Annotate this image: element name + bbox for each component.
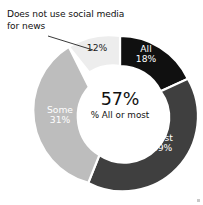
- annotation-label: Does not use social media for news: [7, 9, 127, 32]
- center-caption: % All or most: [66, 110, 174, 121]
- corner-mark: [197, 199, 200, 202]
- donut-center-block: 57% % All or most: [66, 90, 174, 121]
- center-value: 57%: [66, 90, 174, 109]
- donut-chart-figure: Does not use social media for news All 1…: [0, 0, 203, 205]
